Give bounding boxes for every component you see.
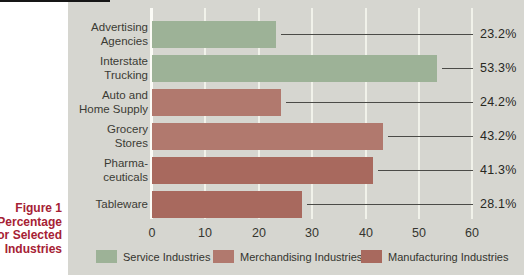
legend-label-merchandising: Merchandising Industries: [240, 251, 362, 263]
legend-item-manufacturing: Manufacturing Industries: [361, 250, 508, 263]
figure-caption: Figure 1 Percentage for Selected Industr…: [0, 202, 62, 256]
gridline-60: [471, 8, 473, 219]
bar-auto-and-home-supply: [152, 89, 281, 116]
category-label-grocery-stores: GroceryStores: [40, 123, 148, 150]
legend-item-merchandising: Merchandising Industries: [213, 250, 362, 263]
legend-swatch-service-icon: [96, 250, 117, 263]
value-label-auto-and-home-supply: 24.2%: [480, 95, 516, 109]
x-tick-label-60: 60: [457, 226, 487, 240]
gridline-30: [311, 8, 313, 219]
category-label-line: Interstate: [40, 55, 148, 69]
figure-caption-line: Industries: [0, 243, 62, 257]
bar-interstate-trucking: [152, 55, 437, 82]
category-label-line: Home Supply: [40, 103, 148, 117]
category-label-pharmaceuticals: Pharma-ceuticals: [40, 157, 148, 184]
bar-grocery-stores: [152, 123, 383, 150]
category-label-line: ceuticals: [40, 171, 148, 185]
value-label-interstate-trucking: 53.3%: [480, 61, 516, 75]
category-label-line: Pharma-: [40, 157, 148, 171]
bar-pharmaceuticals: [152, 157, 373, 184]
legend-swatch-manufacturing-icon: [361, 250, 382, 263]
x-tick-label-30: 30: [297, 226, 327, 240]
category-label-line: Trucking: [40, 69, 148, 83]
category-label-line: Grocery: [40, 123, 148, 137]
figure-caption-line: Figure 1: [0, 202, 62, 216]
category-label-line: Auto and: [40, 89, 148, 103]
legend-item-service: Service Industries: [96, 250, 210, 263]
x-tick-label-50: 50: [404, 226, 434, 240]
x-tick-label-20: 20: [244, 226, 274, 240]
value-label-advertising-agencies: 23.2%: [480, 27, 516, 41]
callout-line-interstate-trucking: [442, 68, 473, 69]
legend-label-manufacturing: Manufacturing Industries: [388, 251, 508, 263]
bar-chart: 010203040506023.2%AdvertisingAgencies53.…: [0, 0, 524, 275]
value-label-tableware: 28.1%: [480, 197, 516, 211]
figure-caption-line: Percentage: [0, 216, 62, 230]
category-label-interstate-trucking: InterstateTrucking: [40, 55, 148, 82]
category-label-line: Advertising: [40, 21, 148, 35]
callout-line-tableware: [307, 204, 473, 205]
x-tick-label-40: 40: [351, 226, 381, 240]
value-label-grocery-stores: 43.2%: [480, 129, 516, 143]
bar-advertising-agencies: [152, 21, 276, 48]
callout-line-auto-and-home-supply: [286, 102, 473, 103]
callout-line-pharmaceuticals: [378, 170, 473, 171]
gridline-40: [365, 8, 367, 219]
category-label-line: Agencies: [40, 35, 148, 49]
callout-line-grocery-stores: [388, 136, 473, 137]
category-label-advertising-agencies: AdvertisingAgencies: [40, 21, 148, 48]
figure-caption-line: for Selected: [0, 229, 62, 243]
category-label-auto-and-home-supply: Auto andHome Supply: [40, 89, 148, 116]
legend-label-service: Service Industries: [123, 251, 210, 263]
x-tick-label-10: 10: [190, 226, 220, 240]
x-tick-label-0: 0: [137, 226, 167, 240]
category-label-line: Stores: [40, 137, 148, 151]
value-label-pharmaceuticals: 41.3%: [480, 163, 516, 177]
callout-line-advertising-agencies: [281, 34, 473, 35]
gridline-50: [418, 8, 420, 219]
figure-page: 010203040506023.2%AdvertisingAgencies53.…: [0, 0, 524, 275]
legend-swatch-merchandising-icon: [213, 250, 234, 263]
bar-tableware: [152, 191, 302, 218]
